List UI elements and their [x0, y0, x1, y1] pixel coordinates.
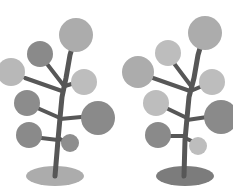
tree-leaf-circle	[189, 137, 207, 155]
tree-branch	[25, 78, 62, 91]
tree-leaf-circle	[204, 100, 233, 134]
tree-branch	[173, 62, 191, 86]
left-tree	[0, 18, 115, 186]
tree-leaf-circle	[71, 69, 97, 95]
tree-leaf-circle	[61, 134, 79, 152]
tree-leaf-circle	[143, 90, 169, 116]
right-tree	[122, 16, 233, 186]
tree-leaf-circle	[199, 69, 225, 95]
tree-leaf-circle	[122, 56, 154, 88]
tree-leaf-circle	[145, 122, 171, 148]
tree-leaf-circle	[155, 40, 181, 66]
tree-leaf-circle	[81, 101, 115, 135]
tree-branch	[35, 107, 60, 118]
tree-trunk	[184, 38, 203, 176]
two-trees-illustration	[0, 0, 233, 193]
tree-trunk	[55, 38, 75, 176]
tree-leaf-circle	[14, 90, 40, 116]
tree-leaf-circle	[59, 18, 93, 52]
tree-leaf-circle	[27, 41, 53, 67]
tree-leaf-circle	[16, 122, 42, 148]
tree-leaf-circle	[0, 58, 25, 86]
illustration-canvas	[0, 0, 233, 193]
tree-leaf-circle	[188, 16, 222, 50]
